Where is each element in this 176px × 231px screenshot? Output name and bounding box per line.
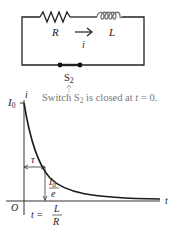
rl-circuit-diagram: R L i S2 Switch S2 is closed at t = 0. i… (0, 0, 176, 231)
time-constant-lhs: t = (31, 209, 43, 220)
tau-label: τ (31, 154, 35, 165)
wire-left (22, 17, 60, 65)
resistor-icon (40, 12, 70, 22)
inductor-icon (97, 12, 122, 19)
origin-label: O (11, 202, 18, 213)
inductor-label: L (108, 26, 115, 38)
time-constant-denominator: R (52, 216, 59, 227)
wire-right (80, 17, 144, 65)
time-constant-numerator: L (53, 203, 60, 214)
switch-terminal-left (58, 63, 63, 68)
current-arrow-icon (75, 28, 92, 36)
caption: Switch S2 is closed at t = 0. (42, 92, 157, 105)
decay-curve (24, 103, 160, 199)
decay-fraction-denominator: e (51, 188, 56, 199)
current-label: i (82, 39, 85, 50)
x-axis-label: t (165, 195, 168, 206)
initial-current-label: I0 (7, 96, 16, 110)
switch-label: S2 (64, 72, 74, 85)
y-axis-label: i (25, 89, 28, 100)
switch-terminal-right (78, 63, 83, 68)
resistor-label: R (51, 26, 59, 38)
